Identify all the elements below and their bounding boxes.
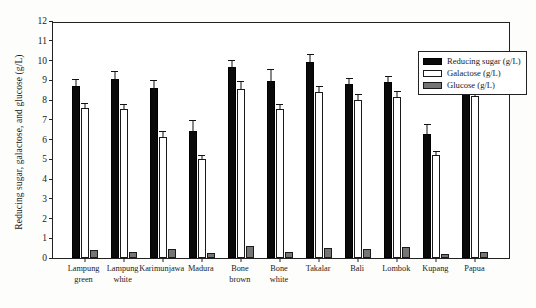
bar-slot	[189, 131, 197, 258]
error-bar-cap	[198, 155, 205, 156]
x-tick-mark	[123, 258, 124, 262]
bar-group-bars	[182, 23, 221, 258]
bar-slot	[150, 88, 158, 258]
bar-group	[260, 23, 299, 258]
y-tick-label: 6	[42, 133, 47, 147]
error-bar-cap	[394, 91, 401, 92]
bar-galactose[interactable]	[393, 97, 401, 258]
bar-slot	[423, 134, 431, 258]
bar-reducing[interactable]	[72, 86, 80, 258]
bar-glucose[interactable]	[285, 252, 293, 258]
bar-slot	[462, 82, 470, 258]
bar-galactose[interactable]	[198, 159, 206, 258]
chart-legend: Reducing sugar (g/L)Galactose (g/L)Gluco…	[418, 51, 527, 95]
error-bar	[84, 103, 85, 109]
error-bar-cap	[189, 120, 196, 121]
bar-glucose[interactable]	[129, 252, 137, 258]
error-bar	[153, 80, 154, 89]
legend-item[interactable]: Reducing sugar (g/L)	[423, 55, 521, 67]
bar-reducing[interactable]	[423, 134, 431, 258]
bar-slot	[384, 82, 392, 258]
bar-galactose[interactable]	[432, 155, 440, 258]
y-tick-label: 10	[38, 54, 48, 68]
bar-group	[65, 23, 104, 258]
bar-glucose[interactable]	[402, 247, 410, 258]
error-bar	[75, 79, 76, 87]
bar-glucose[interactable]	[246, 246, 254, 258]
error-bar	[349, 78, 350, 85]
bar-slot	[285, 252, 293, 258]
y-tick-mark	[49, 100, 53, 101]
legend-swatch-reducing	[423, 58, 442, 65]
error-bar	[270, 69, 271, 83]
bar-slot	[306, 62, 314, 259]
error-bar-cap	[355, 94, 362, 95]
bar-glucose[interactable]	[207, 253, 215, 258]
bar-glucose[interactable]	[441, 254, 449, 258]
y-tick-label: 8	[42, 93, 47, 107]
bar-reducing[interactable]	[189, 131, 197, 258]
error-bar-cap	[81, 103, 88, 104]
error-bar-cap	[346, 78, 353, 79]
bar-glucose[interactable]	[363, 249, 371, 258]
y-tick-mark	[49, 159, 53, 160]
bar-slot	[90, 250, 98, 258]
y-tick-label: 9	[42, 73, 47, 87]
bar-galactose[interactable]	[471, 96, 479, 258]
bar-glucose[interactable]	[480, 252, 488, 258]
bar-group-bars	[300, 23, 339, 258]
bar-galactose[interactable]	[159, 137, 167, 258]
bar-reducing[interactable]	[384, 82, 392, 258]
x-axis-label: Papua	[444, 264, 504, 275]
bar-slot	[441, 254, 449, 258]
bar-group	[221, 23, 260, 258]
legend-item[interactable]: Galactose (g/L)	[423, 67, 521, 79]
bar-glucose[interactable]	[90, 250, 98, 258]
bar-reducing[interactable]	[150, 88, 158, 258]
y-tick-mark	[49, 119, 53, 120]
bar-galactose[interactable]	[354, 100, 362, 258]
bar-galactose[interactable]	[81, 108, 89, 258]
y-tick-label: 4	[42, 172, 47, 186]
y-tick-mark	[49, 40, 53, 41]
bar-reducing[interactable]	[306, 62, 314, 259]
bar-group	[300, 23, 339, 258]
error-bar-cap	[111, 71, 118, 72]
bar-reducing[interactable]	[462, 82, 470, 258]
plot-area: 1211109876543210 Reducing sugar (g/L)Gal…	[52, 22, 510, 259]
error-bar-cap	[72, 79, 79, 80]
bar-galactose[interactable]	[276, 109, 284, 258]
bar-slot	[198, 159, 206, 258]
bar-slot	[432, 155, 440, 258]
y-axis-title: Reducing sugar, galactose, and glucose (…	[10, 8, 28, 276]
y-tick-mark	[49, 258, 53, 259]
error-bar-cap	[150, 80, 157, 81]
bar-reducing[interactable]	[267, 81, 275, 258]
error-bar-cap	[276, 104, 283, 105]
bar-slot	[345, 84, 353, 258]
bar-galactose[interactable]	[237, 89, 245, 258]
y-tick-label: 11	[38, 34, 47, 48]
bar-reducing[interactable]	[345, 84, 353, 258]
legend-swatch-glucose	[423, 82, 442, 89]
bar-reducing[interactable]	[111, 79, 119, 258]
legend-label: Glucose (g/L)	[447, 79, 495, 91]
x-tick-mark	[358, 258, 359, 262]
bar-reducing[interactable]	[228, 67, 236, 258]
bar-group	[378, 23, 417, 258]
bar-group-bars	[143, 23, 182, 258]
y-tick-label: 3	[42, 192, 47, 206]
bar-slot	[159, 137, 167, 258]
error-bar	[123, 104, 124, 110]
bar-glucose[interactable]	[324, 248, 332, 258]
y-tick-mark	[49, 218, 53, 219]
y-tick-mark	[49, 198, 53, 199]
legend-item[interactable]: Glucose (g/L)	[423, 79, 521, 91]
error-bar	[319, 86, 320, 93]
bar-galactose[interactable]	[315, 92, 323, 258]
error-bar	[310, 54, 311, 63]
bar-slot	[81, 108, 89, 258]
bar-galactose[interactable]	[120, 109, 128, 258]
bar-group-bars	[104, 23, 143, 258]
bar-glucose[interactable]	[168, 249, 176, 258]
